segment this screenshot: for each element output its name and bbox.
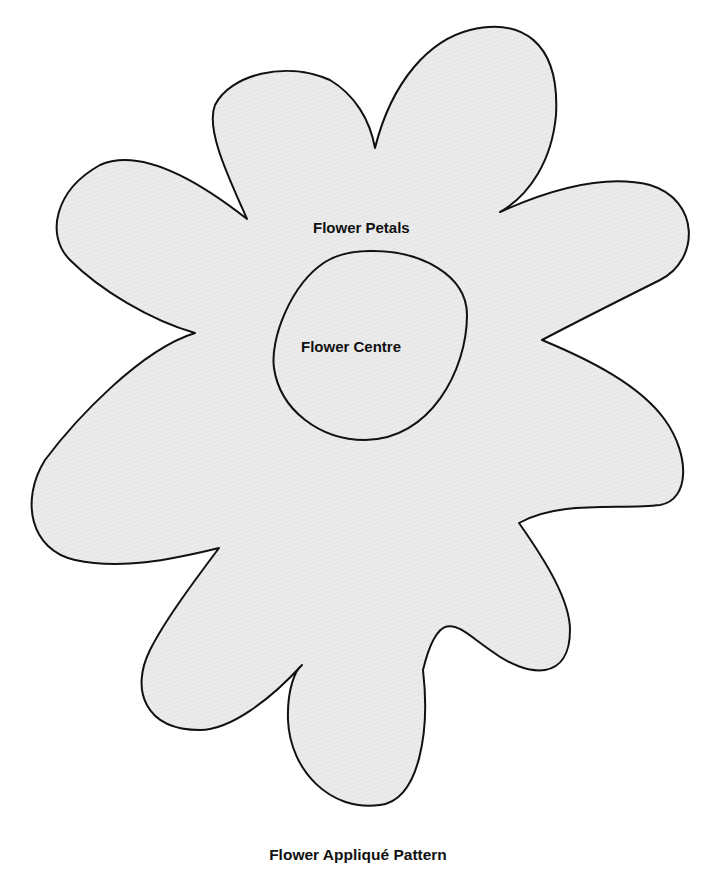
centre-label: Flower Centre bbox=[301, 338, 401, 355]
pattern-diagram: Flower Petals Flower Centre Flower Appli… bbox=[0, 0, 716, 871]
flower-drawing bbox=[0, 0, 716, 871]
petals-label: Flower Petals bbox=[313, 219, 410, 236]
diagram-caption: Flower Appliqué Pattern bbox=[0, 846, 716, 864]
